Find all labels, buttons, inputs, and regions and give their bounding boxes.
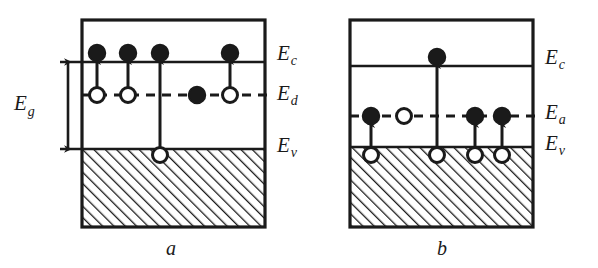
particle-donor-empty-a-4: [90, 88, 105, 103]
particle-hole-b-5: [364, 148, 379, 163]
particle-electron-a-1: [120, 45, 137, 62]
particle-hole-b-8: [495, 148, 510, 163]
level-label-sub-ev-a: v: [291, 145, 298, 160]
level-label-sub-ed-a: d: [291, 93, 299, 108]
level-label-ec-a: Ec: [276, 41, 298, 68]
particle-electron-b-0: [429, 49, 446, 66]
particle-hole-a-8: [153, 148, 168, 163]
particle-electron-a-2: [152, 45, 169, 62]
level-label-ev-b: Ev: [544, 131, 566, 158]
particle-donor-filled-a-6: [189, 87, 206, 104]
level-label-sub-ec-a: c: [291, 53, 298, 68]
level-label-sub-ec-b: c: [559, 57, 566, 72]
level-label-ev-a: Ev: [276, 133, 298, 160]
figure-canvas: EcEdEvEgaEcEaEvb: [0, 0, 598, 268]
level-label-ea-b: Ea: [544, 100, 566, 127]
particle-donor-empty-a-5: [121, 88, 136, 103]
panel-b: EcEaEvb: [350, 20, 566, 259]
panel-caption-a: a: [166, 237, 176, 259]
particle-acceptor-filled-b-4: [494, 108, 511, 125]
panel-caption-b: b: [437, 237, 447, 259]
energy-band-figure: EcEdEvEgaEcEaEvb: [0, 0, 598, 268]
level-label-sub-ev-b: v: [559, 143, 566, 158]
level-label-ed-a: Ed: [276, 81, 299, 108]
particle-electron-a-3: [222, 45, 239, 62]
level-label-sub-ea-b: a: [559, 112, 566, 127]
particle-hole-b-7: [468, 148, 483, 163]
particle-acceptor-filled-b-1: [363, 108, 380, 125]
band-gap-label-sub-a: g: [28, 104, 35, 119]
particle-donor-empty-a-7: [223, 88, 238, 103]
band-gap-label-a: Eg: [13, 91, 35, 119]
particle-acceptor-filled-b-3: [467, 108, 484, 125]
panel-a: EcEdEvEga: [13, 20, 299, 259]
level-label-ec-b: Ec: [544, 45, 566, 72]
generated-graphics-layer: EcEdEvEgaEcEaEvb: [13, 20, 566, 259]
particle-electron-a-0: [89, 45, 106, 62]
valence-band-fill-a: [82, 149, 265, 227]
particle-acceptor-empty-b-2: [397, 109, 412, 124]
particle-hole-b-6: [430, 148, 445, 163]
